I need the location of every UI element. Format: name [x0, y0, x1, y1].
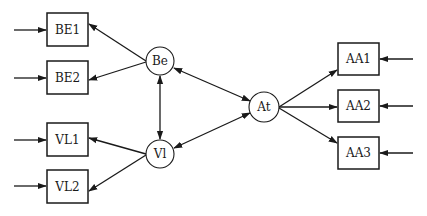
edge-be-at [174, 68, 250, 101]
box-aa3: AA3 [338, 137, 379, 169]
box-vl2: VL2 [47, 170, 88, 203]
edge-be-be1 [89, 24, 146, 61]
node-at: At [249, 92, 279, 122]
node-vl-label: Vl [153, 147, 167, 161]
edge-be-be2 [89, 62, 146, 80]
box-vl2-label: VL2 [54, 180, 79, 194]
box-aa1: AA1 [338, 43, 379, 75]
network-diagram: BE1 BE2 VL1 VL2 Be Vl At AA1 AA2 AA3 [0, 0, 427, 216]
node-at-label: At [256, 100, 270, 114]
box-be1-label: BE1 [55, 23, 80, 37]
box-aa3-label: AA3 [345, 146, 371, 160]
edge-vl-vl2 [89, 155, 146, 191]
node-be: Be [146, 47, 174, 75]
box-vl1: VL1 [47, 123, 88, 156]
box-be2-label: BE2 [55, 71, 80, 85]
edge-at-aa3 [279, 108, 337, 143]
box-aa2: AA2 [338, 90, 379, 122]
box-aa1-label: AA1 [345, 52, 371, 66]
node-be-label: Be [152, 54, 168, 68]
box-be1: BE1 [47, 13, 88, 46]
edge-vl-vl1 [89, 138, 146, 154]
edge-vl-at [174, 113, 250, 148]
box-aa2-label: AA2 [345, 99, 371, 113]
box-vl1-label: VL1 [54, 133, 79, 147]
box-be2: BE2 [47, 61, 88, 94]
node-vl: Vl [146, 140, 174, 168]
edge-at-aa1 [279, 70, 337, 107]
